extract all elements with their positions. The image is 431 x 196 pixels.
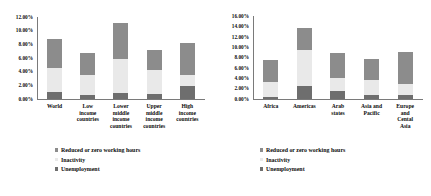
chart-panel-by-income-group: 12.00%10.00%8.00%6.00%4.00%2.00%0.00% Wo… bbox=[0, 0, 215, 196]
bar-segment-reduced-hours bbox=[263, 60, 278, 82]
legend-swatch-reduced-icon bbox=[55, 148, 58, 151]
y-axis-tick-label: 10.00% bbox=[16, 27, 33, 33]
bar-americas bbox=[297, 28, 312, 99]
x-axis-labels-right: AfricaAmericasArabstatesAsia andPacificE… bbox=[254, 103, 422, 129]
x-axis-category-label: Americas bbox=[292, 103, 317, 129]
legend-label: Reduced or zero working hours bbox=[266, 147, 345, 154]
legend-item-reduced[interactable]: Reduced or zero working hours bbox=[260, 147, 345, 154]
y-axis-tick-label: 8.00% bbox=[18, 41, 33, 47]
bar-segment-inactivity bbox=[263, 82, 278, 97]
legend-label: Reduced or zero working hours bbox=[61, 147, 140, 154]
legend-item-inactivity[interactable]: Inactivity bbox=[55, 157, 140, 164]
legend-label: Unemployment bbox=[266, 166, 305, 173]
y-axis-tick-label: 6.00% bbox=[234, 65, 249, 71]
bar-segment-unemployment bbox=[147, 94, 162, 99]
legend-swatch-inactivity-icon bbox=[55, 158, 58, 161]
bar-segment-unemployment bbox=[398, 95, 413, 99]
x-axis-category-label: Arabstates bbox=[325, 103, 350, 129]
x-axis-category-label: Uppermiddleincomecountries bbox=[142, 103, 167, 129]
bar-lower-middle-income-countries bbox=[113, 23, 128, 100]
legend-swatch-unemployment-icon bbox=[260, 167, 263, 170]
bar-segment-inactivity bbox=[47, 68, 62, 92]
bar-world bbox=[47, 39, 62, 99]
bar-high-income-countries bbox=[180, 43, 195, 99]
y-axis-tick-label: 4.00% bbox=[18, 68, 33, 74]
bar-segment-inactivity bbox=[398, 84, 413, 95]
legend-item-unemployment[interactable]: Unemployment bbox=[55, 166, 140, 173]
legend-label: Inactivity bbox=[266, 157, 290, 164]
x-axis-line-right bbox=[253, 99, 423, 100]
bar-segment-unemployment bbox=[47, 92, 62, 99]
x-axis-category-label: Highincomecountries bbox=[175, 103, 200, 129]
bar-segment-unemployment bbox=[263, 97, 278, 99]
y-axis-tick-label: 0.00% bbox=[18, 96, 33, 102]
bar-segment-inactivity bbox=[80, 75, 95, 95]
chart-panel-by-region: 16.00%14.00%12.00%10.00%8.00%6.00%4.00%2… bbox=[215, 0, 431, 196]
bar-segment-unemployment bbox=[364, 95, 379, 99]
bar-segment-inactivity bbox=[330, 78, 345, 91]
bar-segment-inactivity bbox=[113, 59, 128, 92]
bar-segment-inactivity bbox=[147, 70, 162, 95]
legend-item-inactivity[interactable]: Inactivity bbox=[260, 157, 345, 164]
bar-europe-and-cental-asia bbox=[398, 52, 413, 99]
bar-segment-reduced-hours bbox=[330, 53, 345, 78]
bar-segment-reduced-hours bbox=[398, 52, 413, 84]
bar-segment-unemployment bbox=[180, 86, 195, 99]
plot-area-right: 16.00%14.00%12.00%10.00%8.00%6.00%4.00%2… bbox=[215, 0, 431, 104]
y-axis-tick-label: 14.00% bbox=[232, 23, 249, 29]
y-axis-tick-label: 8.00% bbox=[234, 54, 249, 60]
bar-segment-reduced-hours bbox=[80, 53, 95, 75]
x-axis-category-label: Lowincomecountries bbox=[75, 103, 100, 129]
legend-item-reduced[interactable]: Reduced or zero working hours bbox=[55, 147, 140, 154]
x-axis-category-label: EuropeandCentalAsia bbox=[393, 103, 418, 129]
bars-group-right bbox=[254, 16, 422, 99]
bar-segment-reduced-hours bbox=[47, 39, 62, 68]
bar-arab-states bbox=[330, 53, 345, 99]
plot-area-left: 12.00%10.00%8.00%6.00%4.00%2.00%0.00% bbox=[0, 0, 215, 104]
y-axis-tick-label: 6.00% bbox=[18, 55, 33, 61]
y-axis-tick-label: 2.00% bbox=[18, 82, 33, 88]
bar-asia-and-pacific bbox=[364, 59, 379, 99]
bar-segment-inactivity bbox=[297, 50, 312, 86]
x-axis-category-label: Asia andPacific bbox=[359, 103, 384, 129]
legend-item-unemployment[interactable]: Unemployment bbox=[260, 166, 345, 173]
legend-swatch-inactivity-icon bbox=[260, 158, 263, 161]
bar-segment-reduced-hours bbox=[297, 28, 312, 50]
bar-segment-inactivity bbox=[364, 80, 379, 95]
x-axis-category-label: Lowermiddleincomecountries bbox=[108, 103, 133, 129]
bars-group-left bbox=[38, 17, 204, 99]
legend-label: Unemployment bbox=[61, 166, 100, 173]
legend-swatch-reduced-icon bbox=[260, 148, 263, 151]
bar-segment-reduced-hours bbox=[180, 43, 195, 75]
y-axis-tick-label: 10.00% bbox=[232, 44, 249, 50]
figure-container: 12.00%10.00%8.00%6.00%4.00%2.00%0.00% Wo… bbox=[0, 0, 431, 196]
bar-upper-middle-income-countries bbox=[147, 50, 162, 99]
bar-segment-unemployment bbox=[297, 86, 312, 99]
bar-segment-reduced-hours bbox=[364, 59, 379, 81]
legend-swatch-unemployment-icon bbox=[55, 167, 58, 170]
bar-segment-unemployment bbox=[330, 91, 345, 99]
bar-segment-reduced-hours bbox=[113, 23, 128, 60]
legend-right: Reduced or zero working hoursInactivityU… bbox=[260, 147, 345, 176]
y-axis-tick-label: 2.00% bbox=[234, 85, 249, 91]
y-axis-tick-label: 12.00% bbox=[16, 14, 33, 20]
bar-low-income-countries bbox=[80, 53, 95, 99]
y-axis-tick-label: 16.00% bbox=[232, 13, 249, 19]
bar-segment-reduced-hours bbox=[147, 50, 162, 70]
x-axis-category-label: World bbox=[42, 103, 67, 129]
legend-left: Reduced or zero working hoursInactivityU… bbox=[55, 147, 140, 176]
x-axis-line-left bbox=[37, 99, 205, 100]
legend-label: Inactivity bbox=[61, 157, 85, 164]
y-axis-labels-right: 16.00%14.00%12.00%10.00%8.00%6.00%4.00%2… bbox=[215, 0, 251, 107]
y-axis-tick-label: 12.00% bbox=[232, 34, 249, 40]
x-axis-category-label: Africa bbox=[258, 103, 283, 129]
y-axis-tick-label: 0.00% bbox=[234, 96, 249, 102]
x-axis-labels-left: WorldLowincomecountriesLowermiddleincome… bbox=[38, 103, 204, 129]
y-axis-tick-label: 4.00% bbox=[234, 75, 249, 81]
y-axis-labels-left: 12.00%10.00%8.00%6.00%4.00%2.00%0.00% bbox=[0, 0, 35, 107]
bar-segment-unemployment bbox=[80, 95, 95, 99]
bar-segment-unemployment bbox=[113, 93, 128, 99]
bar-africa bbox=[263, 60, 278, 99]
bar-segment-inactivity bbox=[180, 75, 195, 86]
